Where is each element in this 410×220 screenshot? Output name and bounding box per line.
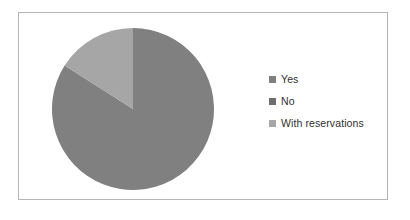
pie-chart-plot-area: Yes No With reservations [19,13,387,199]
legend-label-yes: Yes [281,74,298,85]
pie-chart-svg [43,13,223,199]
legend-item-no[interactable]: No [269,90,389,112]
legend-item-with-reservations[interactable]: With reservations [269,112,389,134]
legend-swatch-with-reservations [269,120,276,127]
chart-legend: Yes No With reservations [269,68,389,134]
legend-item-yes[interactable]: Yes [269,68,389,90]
legend-label-with-reservations: With reservations [281,118,364,129]
legend-label-no: No [281,96,295,107]
legend-swatch-no [269,98,276,105]
chart-frame: Yes No With reservations [18,12,388,200]
legend-swatch-yes [269,76,276,83]
